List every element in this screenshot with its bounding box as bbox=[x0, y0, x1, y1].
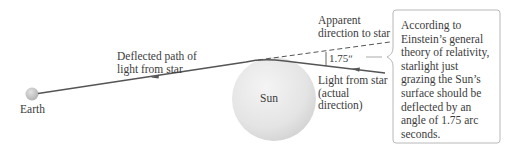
apparent-direction-label-line-1: Apparent bbox=[318, 14, 390, 27]
callout-line-5: grazing the Sun’s bbox=[401, 73, 494, 87]
callout-line-8: angle of 1.75 arc bbox=[401, 114, 494, 128]
deflection-angle-label: 1.75ʺ bbox=[329, 52, 352, 65]
earth-sphere bbox=[26, 88, 39, 101]
sun-label: Sun bbox=[260, 92, 278, 104]
actual-direction-label-line-3: direction) bbox=[318, 99, 388, 112]
callout-line-9: seconds. bbox=[401, 128, 494, 142]
apparent-direction-label: Apparent direction to star bbox=[318, 14, 390, 39]
callout-line-4: starlight just bbox=[401, 60, 494, 74]
deflected-path-label-line-2: light from star bbox=[117, 63, 197, 76]
actual-direction-label: Light from star (actual direction) bbox=[318, 74, 388, 112]
callout-line-7: deflected by an bbox=[401, 101, 494, 115]
apparent-direction-label-line-2: direction to star bbox=[318, 27, 390, 40]
actual-direction-label-line-2: (actual bbox=[318, 87, 388, 100]
deflected-path-label-line-1: Deflected path of bbox=[117, 50, 197, 63]
callout-line-6: surface should be bbox=[401, 87, 494, 101]
actual-direction-label-line-1: Light from star bbox=[318, 74, 388, 87]
earth-label: Earth bbox=[20, 103, 45, 116]
callout-line-1: According to bbox=[401, 19, 494, 33]
deflected-path-label: Deflected path of light from star bbox=[117, 50, 197, 75]
einstein-callout: According to Einstein’s general theory o… bbox=[392, 10, 500, 143]
light-deflection-diagram: Earth Sun Deflected path of light from s… bbox=[0, 0, 508, 147]
callout-line-2: Einstein’s general bbox=[401, 33, 494, 47]
callout-line-3: theory of relativity, bbox=[401, 46, 494, 60]
